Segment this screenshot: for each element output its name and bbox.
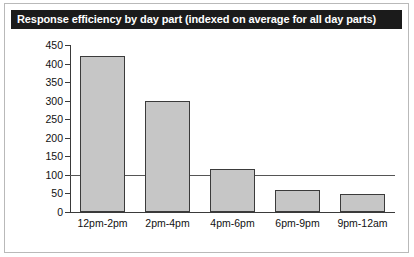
bar-slot: [210, 45, 256, 212]
y-tick-label: 100: [23, 169, 63, 181]
x-tick-label: 6pm-9pm: [275, 217, 319, 229]
bar-slot: [80, 45, 126, 212]
x-tick-label: 12pm-2pm: [77, 217, 127, 229]
bar-slot: [275, 45, 321, 212]
y-tick-label: 150: [23, 150, 63, 162]
y-tick-label: 300: [23, 95, 63, 107]
bar[interactable]: [210, 169, 256, 212]
x-tick-label: 4pm-6pm: [210, 217, 254, 229]
plot-area: 050100150200250300350400450 12pm-2pm2pm-…: [70, 45, 395, 212]
y-tick-label: 200: [23, 132, 63, 144]
y-tick-label: 50: [23, 187, 63, 199]
plot-wrapper: 050100150200250300350400450 12pm-2pm2pm-…: [11, 33, 402, 246]
y-tick-label: 350: [23, 76, 63, 88]
y-tick-label: 450: [23, 39, 63, 51]
y-tick-mark: [65, 212, 70, 213]
chart-title-bar: Response efficiency by day part (indexed…: [11, 10, 402, 29]
chart-title: Response efficiency by day part (indexed…: [17, 14, 376, 25]
bar[interactable]: [80, 56, 126, 212]
bar[interactable]: [145, 101, 191, 212]
y-tick-label: 400: [23, 58, 63, 70]
bar-slot: [145, 45, 191, 212]
bar[interactable]: [340, 194, 386, 212]
x-axis-line: [70, 212, 395, 213]
y-tick-label: 0: [23, 206, 63, 218]
bar-series: [70, 45, 395, 212]
chart-figure: Response efficiency by day part (indexed…: [0, 0, 414, 257]
x-tick-label: 2pm-4pm: [145, 217, 189, 229]
y-tick-label: 250: [23, 113, 63, 125]
x-tick-label: 9pm-12am: [337, 217, 387, 229]
bar-slot: [340, 45, 386, 212]
bar[interactable]: [275, 190, 321, 212]
